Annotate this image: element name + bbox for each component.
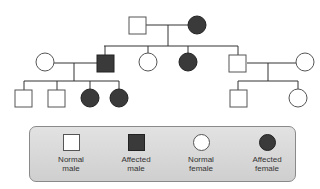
legend-label-line1: Normal <box>38 155 104 164</box>
individual-III-1-normal-male <box>15 90 32 107</box>
legend-label-line2: male <box>38 164 104 173</box>
connector-lines <box>24 25 298 90</box>
individual-II-2-normal-female <box>139 53 157 71</box>
legend-label: Normal female <box>168 155 234 173</box>
individual-II-3-affected-female <box>179 53 197 71</box>
individual-III-5-normal-male <box>230 90 247 107</box>
legend-label: Affected male <box>103 155 169 173</box>
individual-I-2-affected-female <box>188 16 206 34</box>
legend-label: Affected female <box>234 155 300 173</box>
individual-I-1-normal-male <box>129 17 146 34</box>
individual-II-spouse-1-normal-female <box>36 53 54 71</box>
individual-III-3-affected-female <box>81 89 99 107</box>
legend-label-line1: Normal <box>168 155 234 164</box>
pedigree-chart <box>0 0 320 125</box>
legend-label-line1: Affected <box>234 155 300 164</box>
legend-item-affected-female: Affected female <box>234 127 300 173</box>
legend-label-line2: female <box>168 164 234 173</box>
legend-label-line1: Affected <box>103 155 169 164</box>
legend-item-normal-male: Normal male <box>38 127 104 173</box>
legend-item-normal-female: Normal female <box>168 127 234 173</box>
individual-III-2-normal-male <box>48 90 65 107</box>
individual-II-1-affected-male <box>97 55 114 72</box>
legend-label-line2: female <box>234 164 300 173</box>
affected-male-square-icon <box>128 134 145 151</box>
affected-female-circle-icon <box>259 134 276 151</box>
individual-III-6-normal-female <box>289 89 307 107</box>
legend-label-line2: male <box>103 164 169 173</box>
normal-female-circle-icon <box>193 134 210 151</box>
legend-label: Normal male <box>38 155 104 173</box>
legend: Normal male Affected male Normal female … <box>29 126 296 182</box>
legend-item-affected-male: Affected male <box>103 127 169 173</box>
normal-male-square-icon <box>63 134 80 151</box>
individual-II-4-normal-male <box>229 55 246 72</box>
individual-III-4-affected-female <box>110 89 128 107</box>
individual-II-spouse-2-normal-female <box>296 53 314 71</box>
